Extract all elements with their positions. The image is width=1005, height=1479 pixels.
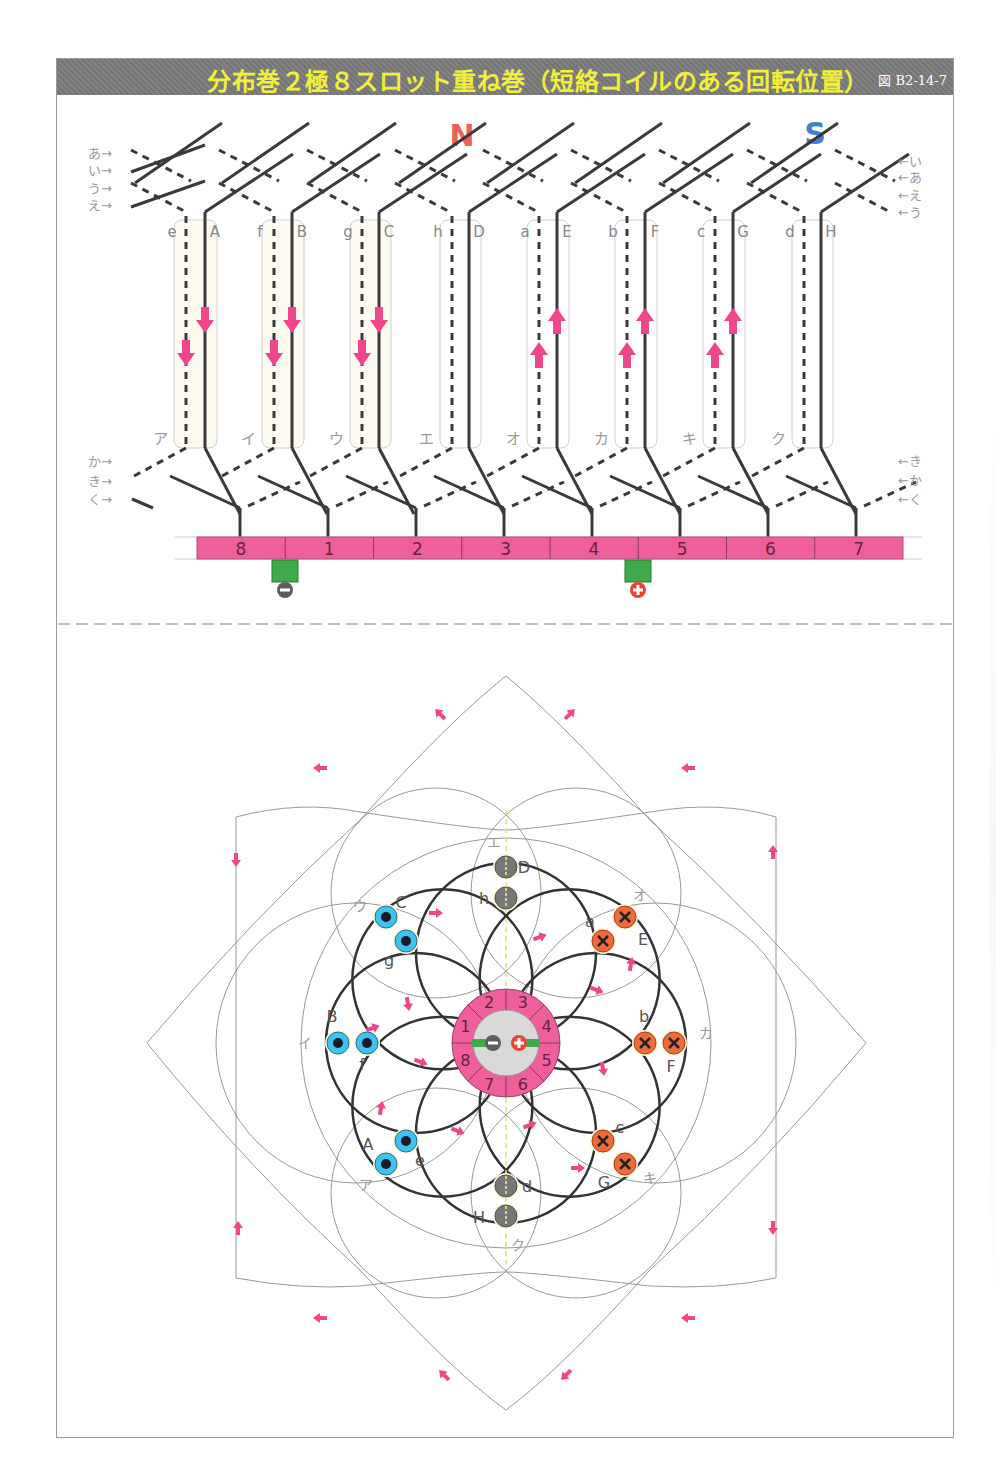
conductor-label: F <box>651 223 660 241</box>
row-label: え→ <box>88 198 112 213</box>
commutator-segment-label: 8 <box>460 1051 470 1070</box>
winding-diagram: NSeAfBgChDaEbFcGdHアイウエオカキクあ→い→う→え→←い←あ←え… <box>0 0 1005 1479</box>
conductor-label: H <box>825 223 836 241</box>
pole-n-label: N <box>449 118 474 153</box>
flux-arrow-icon <box>562 706 579 723</box>
slot-Fb: Fbカ <box>632 1007 713 1076</box>
lower-dashed-cross <box>600 482 652 506</box>
arrow-up-icon <box>706 342 724 368</box>
coil-label: ク <box>771 430 786 448</box>
lower-dashed-cross <box>688 482 740 506</box>
end-wire <box>557 154 645 212</box>
negative-brush <box>272 560 298 598</box>
lower-dashed-cross <box>776 482 828 506</box>
conductor-label: G <box>737 223 749 241</box>
conductor-label: A <box>210 223 221 241</box>
flux-arrow-icon <box>313 763 327 773</box>
coil-outline <box>615 220 657 448</box>
flux-arrow-icon <box>375 1100 387 1116</box>
row-label: う→ <box>88 181 112 196</box>
conductor-label: f <box>359 1055 365 1074</box>
arrow-up-icon <box>724 308 742 334</box>
lower-dashed <box>310 448 362 476</box>
row-label: ←い <box>898 154 922 169</box>
commutator-segment-label: 5 <box>542 1051 552 1070</box>
row-label: く→ <box>88 492 112 507</box>
conductor-label: a <box>585 912 595 931</box>
end-wire <box>469 154 557 212</box>
commutator-segment-label: 1 <box>460 1017 470 1036</box>
brush-block <box>272 560 298 582</box>
conductor-label: H <box>473 1208 485 1227</box>
slot-Bf: Bfイ <box>298 1007 380 1074</box>
conductor-label: c <box>616 1118 625 1137</box>
row-label: あ→ <box>88 146 112 161</box>
conductor-label: D <box>473 223 485 241</box>
coil-outline <box>792 220 833 448</box>
end-wire <box>821 154 909 212</box>
lower-cross-wire <box>258 476 328 508</box>
commutator-segment-label: 8 <box>236 539 247 559</box>
conductor-label: g <box>343 223 353 241</box>
slot-Cg: Cgウ <box>353 893 419 970</box>
coil-label: オ <box>633 887 647 903</box>
coil-label: イ <box>241 430 256 448</box>
conductor-label: E <box>562 223 571 241</box>
arrow-up-icon <box>618 342 636 368</box>
coil-outline <box>527 220 569 448</box>
conductor-label: b <box>608 223 618 241</box>
conductor-label: b <box>639 1007 649 1026</box>
conductor-label: e <box>415 1151 425 1170</box>
row-label: い→ <box>88 163 112 178</box>
commutator-segment-label: 6 <box>518 1075 528 1094</box>
flux-arrow-icon <box>558 1367 575 1384</box>
conductor-label: c <box>697 223 705 241</box>
row-label: ←く <box>898 492 922 507</box>
coil-label: イ <box>298 1035 312 1051</box>
lower-dashed-cross <box>248 482 300 506</box>
conductor-label: F <box>666 1057 675 1076</box>
conductor-label: a <box>520 223 529 241</box>
flux-arrow-icon <box>233 1221 243 1235</box>
row-label: ←き <box>898 454 922 469</box>
row-label: き→ <box>88 474 112 489</box>
arrow-up-icon <box>530 342 548 368</box>
commutator-segment-label: 7 <box>853 539 864 559</box>
row-label: ←う <box>898 205 922 220</box>
coil-label: カ <box>594 430 609 448</box>
coil-label: ア <box>359 1177 373 1193</box>
conductor-label: B <box>297 223 307 241</box>
positive-brush <box>625 560 651 598</box>
commutator-segment-label: 1 <box>324 539 335 559</box>
lower-dashed <box>575 448 627 476</box>
coil-label: エ <box>487 834 501 850</box>
dashed-end-connections <box>131 150 916 506</box>
commutator-segment-label: 2 <box>484 993 494 1012</box>
developed-winding-diagram: NSeAfBgChDaEbFcGdHアイウエオカキクあ→い→う→え→←い←あ←え… <box>88 116 922 598</box>
conductor-label: C <box>395 893 406 912</box>
commutator-segment-label: 4 <box>542 1017 552 1036</box>
coil-label: ア <box>153 430 168 448</box>
coil-label: オ <box>506 430 521 448</box>
row-label: ←か <box>898 473 922 488</box>
coil-outline <box>440 220 481 448</box>
conductor-label: G <box>598 1173 610 1192</box>
flux-arrow-icon <box>432 706 449 723</box>
conductor-label: h <box>479 889 489 908</box>
conductor-label: B <box>327 1007 338 1026</box>
end-wire <box>132 499 153 508</box>
flux-arrow-icon <box>571 1163 585 1173</box>
coil-label: キ <box>643 1170 657 1186</box>
flux-arrow-icon <box>436 1367 453 1384</box>
commutator-segment-label: 3 <box>500 539 511 559</box>
conductor-label: d <box>522 1177 532 1196</box>
conductor-label: f <box>257 223 263 241</box>
flux-arrow-icon <box>402 996 414 1012</box>
flux-arrow-icon <box>313 1313 327 1323</box>
conductor-label: C <box>384 223 394 241</box>
flux-arrow-icon <box>231 853 241 867</box>
coil-label: ウ <box>329 430 344 448</box>
commutator-segment-label: 2 <box>412 539 423 559</box>
conductor-label: d <box>785 223 795 241</box>
conductor-label: e <box>167 223 176 241</box>
